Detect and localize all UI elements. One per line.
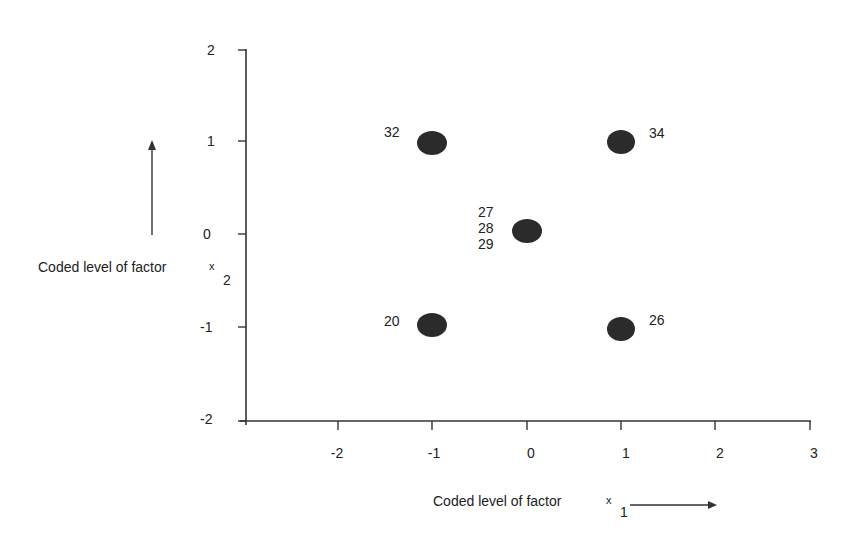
data-point-34 <box>607 130 635 154</box>
point-label-34: 34 <box>649 125 665 141</box>
y-axis-subscript: 2 <box>223 272 231 288</box>
point-label-20: 20 <box>384 313 400 329</box>
y-tick-label-2: 2 <box>207 42 215 58</box>
y-tick-label-1: 1 <box>207 133 215 149</box>
data-point-26 <box>607 317 635 341</box>
x-tick-label-neg2: -2 <box>331 445 344 461</box>
y-axis-arrow-icon <box>148 140 156 235</box>
x-axis-variable: x <box>606 494 612 506</box>
y-axis-variable: x <box>209 260 215 272</box>
data-point-center <box>512 219 542 243</box>
x-axis-ticks <box>338 421 810 430</box>
x-tick-label-3: 3 <box>810 445 818 461</box>
point-label-28: 28 <box>478 220 494 236</box>
x-axis-title: Coded level of factor <box>433 493 562 509</box>
point-label-26: 26 <box>649 312 665 328</box>
point-label-27: 27 <box>478 204 494 220</box>
y-tick-label-0: 0 <box>203 226 211 242</box>
data-point-32 <box>417 131 447 155</box>
point-label-32: 32 <box>384 124 400 140</box>
y-tick-label-neg2: -2 <box>200 411 213 427</box>
scatter-chart: 2 1 0 -1 -2 -2 -1 0 1 2 3 Coded level of… <box>0 0 866 539</box>
x-axis-arrow-icon <box>630 501 717 509</box>
y-axis-title: Coded level of factor <box>38 259 167 275</box>
x-tick-label-2: 2 <box>716 445 724 461</box>
x-tick-label-neg1: -1 <box>428 445 441 461</box>
x-tick-label-0: 0 <box>527 445 535 461</box>
y-axis-ticks <box>238 50 246 421</box>
data-point-20 <box>417 313 447 337</box>
point-label-29: 29 <box>478 236 494 252</box>
y-tick-label-neg1: -1 <box>200 319 213 335</box>
x-axis-subscript: 1 <box>620 504 628 520</box>
x-tick-label-1: 1 <box>622 445 630 461</box>
